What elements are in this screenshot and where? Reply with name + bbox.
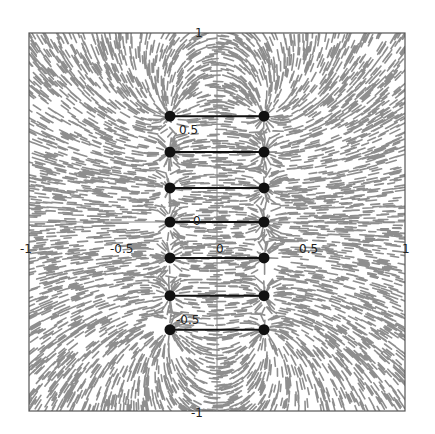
charge-point <box>165 324 176 335</box>
y-tick-label: -0.5 <box>176 314 199 326</box>
charge-point <box>259 252 270 263</box>
charge-point <box>259 324 270 335</box>
x-tick-label: -0.5 <box>110 243 133 255</box>
charge-point <box>259 111 270 122</box>
x-tick-label: -1 <box>20 243 32 255</box>
x-tick-label: 1 <box>402 243 410 255</box>
charge-point <box>259 290 270 301</box>
charge-point <box>165 111 176 122</box>
x-tick-label: 0 <box>216 243 224 255</box>
charge-point <box>165 217 176 228</box>
y-tick-label: 1 <box>195 27 203 39</box>
charge-point <box>259 217 270 228</box>
charge-point <box>165 290 176 301</box>
charge-point <box>165 252 176 263</box>
y-tick-label: 0 <box>193 215 201 227</box>
charge-point <box>259 182 270 193</box>
charge-point <box>259 147 270 158</box>
y-tick-label: 0.5 <box>179 124 198 136</box>
field-plot <box>0 0 435 434</box>
y-tick-label: -1 <box>191 407 203 419</box>
charge-point <box>165 147 176 158</box>
x-tick-label: 0.5 <box>299 243 318 255</box>
charge-point <box>165 182 176 193</box>
